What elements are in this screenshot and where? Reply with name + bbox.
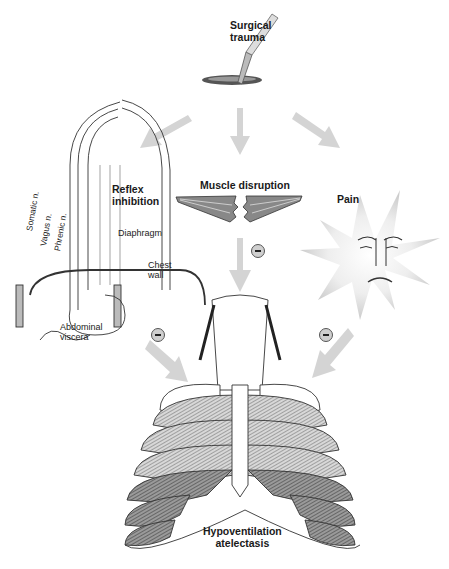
reflex-label: Reflex inhibition [112,183,159,207]
abdominal-line1: Abdominal [60,322,103,332]
inhibition-minus-icon [319,328,333,342]
muscle-label: Muscle disruption [200,179,290,191]
source-label: Surgical trauma [230,19,271,43]
chest-wall-line2: wall [148,270,172,280]
arrow-to-muscle [230,108,250,155]
diagram-canvas [0,0,449,569]
inhibition-minus-icon [251,244,265,258]
pain-label: Pain [337,193,359,205]
muscle-fibers-icon [176,196,302,222]
arrow-muscle-to-chest [229,238,251,292]
source-label-line2: trauma [230,31,271,43]
outcome-label: Hypoventilation atelectasis [203,525,282,549]
arrow-reflex-to-chest [145,340,188,382]
abdominal-viscera-label: Abdominal viscera [60,322,103,342]
chest-wall-line1: Chest [148,260,172,270]
outcome-label-line2: atelectasis [203,537,282,549]
source-label-line1: Surgical [230,19,271,31]
diaphragm-label: Diaphragm [118,228,162,238]
chest-wall-label: Chest wall [148,260,172,280]
reflex-label-line2: inhibition [112,195,159,207]
inhibition-minus-icon [151,328,165,342]
abdominal-line2: viscera [60,332,103,342]
pain-face-icon [300,190,440,320]
reflex-label-line1: Reflex [112,183,159,195]
outcome-label-line1: Hypoventilation [203,525,282,537]
arrow-to-pain [292,112,340,148]
